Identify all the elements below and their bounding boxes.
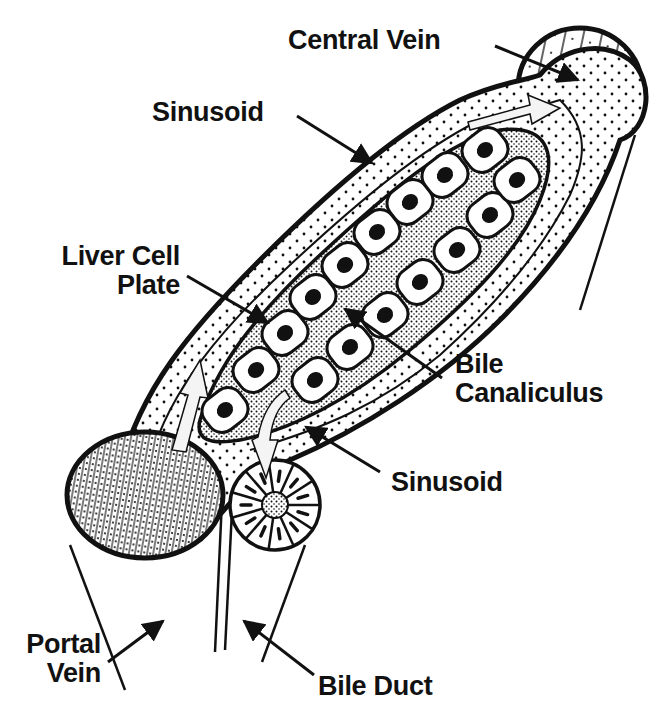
tissue-right-duct xyxy=(262,545,305,662)
duct-cell-nucleus xyxy=(278,529,279,539)
label-sinusoid-top: Sinusoid xyxy=(152,98,264,127)
portal-vein xyxy=(67,432,223,558)
label-text: Plate xyxy=(30,271,180,300)
label-text: Sinusoid xyxy=(391,468,503,497)
label-text: Sinusoid xyxy=(152,98,264,127)
label-sinusoid-bottom: Sinusoid xyxy=(391,468,503,497)
label-text: Central Vein xyxy=(288,26,440,55)
label-portal-vein: Portal Vein xyxy=(5,630,101,688)
tissue-center-b xyxy=(225,510,232,650)
label-text: Canaliculus xyxy=(455,379,603,408)
bile-duct-lumen xyxy=(262,492,288,518)
label-text: Portal xyxy=(5,630,101,659)
label-bile-canaliculus: Bile Canaliculus xyxy=(455,350,603,408)
arrow-portal-vein-icon xyxy=(108,621,163,662)
label-liver-cell-plate: Liver Cell Plate xyxy=(30,242,180,300)
label-text: Bile xyxy=(455,350,603,379)
duct-cell-nucleus xyxy=(278,471,279,481)
bile-duct xyxy=(230,460,320,550)
arrow-bile-duct-icon xyxy=(244,621,314,675)
arrow-sinusoid-top-icon xyxy=(297,116,372,163)
label-text: Vein xyxy=(5,659,101,688)
label-bile-duct: Bile Duct xyxy=(318,672,432,701)
label-text: Liver Cell xyxy=(30,242,180,271)
label-central-vein: Central Vein xyxy=(288,26,440,55)
label-text: Bile Duct xyxy=(318,672,432,701)
